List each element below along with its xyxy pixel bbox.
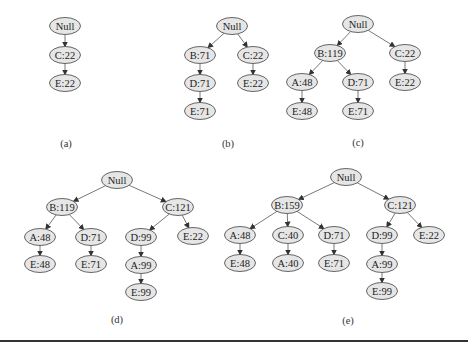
tree-node: E:48 bbox=[25, 256, 56, 273]
node-label: E:22 bbox=[55, 78, 75, 89]
edge-d-c-cd bbox=[150, 214, 170, 230]
node-label: A:48 bbox=[230, 230, 251, 241]
node-label: D:99 bbox=[131, 232, 152, 243]
tree-node: A:48 bbox=[25, 229, 56, 246]
tree-node: A:48 bbox=[225, 227, 256, 244]
node-label: B:119 bbox=[49, 202, 74, 213]
edge-d-c-ce bbox=[182, 215, 189, 228]
tree-node: E:99 bbox=[126, 284, 157, 301]
tree-c: NullB:119C:22A:48D:71E:22E:48E:71 bbox=[287, 16, 421, 120]
edge-e-b-ba bbox=[250, 211, 277, 228]
caption-c: (c) bbox=[352, 137, 364, 149]
node-label: E:22 bbox=[183, 231, 203, 242]
node-label: E:71 bbox=[348, 106, 368, 117]
node-label: E:99 bbox=[131, 287, 151, 298]
node-label: C:121 bbox=[165, 202, 191, 213]
node-label: A:40 bbox=[278, 258, 299, 269]
edge-b-null-b bbox=[208, 33, 224, 47]
tree-node: C:40 bbox=[273, 227, 304, 244]
edge-c-b-bd bbox=[337, 61, 350, 75]
edge-d-null-b bbox=[74, 186, 106, 202]
node-label: D:71 bbox=[348, 77, 369, 88]
caption-d: (d) bbox=[111, 314, 124, 326]
nodes-layer: NullC:22E:22NullB:71C:22D:71E:22E:71Null… bbox=[25, 16, 445, 301]
tree-node: A:99 bbox=[367, 256, 398, 273]
tree-node: E:71 bbox=[76, 256, 107, 273]
node-label: E:71 bbox=[81, 259, 101, 270]
tree-node: Null bbox=[331, 169, 362, 186]
tree-node: A:40 bbox=[273, 255, 304, 272]
node-label: A:48 bbox=[30, 232, 51, 243]
tree-node: Null bbox=[217, 18, 248, 35]
tree-node: E:22 bbox=[414, 227, 445, 244]
tree-node: A:48 bbox=[287, 74, 318, 91]
node-label: E:48 bbox=[30, 259, 50, 270]
node-label: D:71 bbox=[324, 230, 345, 241]
tree-node: C:22 bbox=[238, 47, 269, 64]
tree-node: B:159 bbox=[272, 197, 303, 214]
node-label: D:71 bbox=[81, 232, 102, 243]
node-label: A:99 bbox=[131, 260, 152, 271]
tree-node: Null bbox=[102, 172, 133, 189]
tree-node: E:48 bbox=[287, 103, 318, 120]
edge-c-null-c bbox=[368, 30, 394, 46]
tree-node: Null bbox=[343, 16, 374, 33]
edges-layer bbox=[40, 30, 422, 283]
node-label: C:121 bbox=[387, 200, 413, 211]
tree-node: D:71 bbox=[343, 74, 374, 91]
node-label: Null bbox=[349, 19, 368, 30]
node-label: C:22 bbox=[243, 50, 263, 61]
fp-tree-diagram: NullC:22E:22NullB:71C:22D:71E:22E:71Null… bbox=[0, 0, 468, 348]
node-label: B:71 bbox=[190, 50, 210, 61]
node-label: A:99 bbox=[372, 259, 393, 270]
tree-node: C:121 bbox=[163, 199, 194, 216]
tree-node: D:99 bbox=[367, 227, 398, 244]
node-label: C:40 bbox=[278, 230, 298, 241]
tree-node: C:22 bbox=[390, 45, 421, 62]
node-label: E:71 bbox=[190, 106, 210, 117]
tree-node: E:22 bbox=[178, 228, 209, 245]
caption-b: (b) bbox=[222, 138, 235, 150]
node-label: E:22 bbox=[243, 78, 263, 89]
captions-layer: (a)(b)(c)(d)(e) bbox=[60, 137, 364, 327]
tree-node: E:22 bbox=[390, 74, 421, 91]
node-label: Null bbox=[337, 172, 356, 183]
edge-d-null-c bbox=[129, 185, 166, 201]
edge-d-b-bd bbox=[69, 215, 83, 230]
figure-canvas: NullC:22E:22NullB:71C:22D:71E:22E:71Null… bbox=[0, 0, 468, 348]
tree-node: A:99 bbox=[126, 257, 157, 274]
tree-d: NullB:119C:121A:48D:71D:99E:22E:48E:71A:… bbox=[25, 172, 209, 301]
tree-node: D:71 bbox=[319, 227, 350, 244]
tree-e: NullB:159C:121A:48C:40D:71D:99E:22E:48A:… bbox=[225, 169, 445, 300]
tree-node: B:119 bbox=[315, 45, 346, 62]
caption-a: (a) bbox=[60, 138, 72, 150]
node-label: E:22 bbox=[395, 77, 415, 88]
tree-a: NullC:22E:22 bbox=[50, 18, 81, 92]
tree-node: E:71 bbox=[343, 103, 374, 120]
tree-node: Null bbox=[50, 18, 81, 35]
node-label: D:99 bbox=[372, 230, 393, 241]
node-label: B:119 bbox=[317, 48, 342, 59]
tree-node: D:99 bbox=[126, 229, 157, 246]
node-label: B:159 bbox=[274, 200, 300, 211]
caption-e: (e) bbox=[342, 315, 354, 327]
edge-b-null-c bbox=[238, 34, 248, 47]
tree-node: B:71 bbox=[185, 47, 216, 64]
edge-e-null-c bbox=[357, 183, 388, 199]
tree-node: E:22 bbox=[50, 75, 81, 92]
edge-e-null-b bbox=[299, 183, 335, 200]
node-label: C:22 bbox=[395, 48, 415, 59]
node-label: E:99 bbox=[372, 286, 392, 297]
node-label: E:48 bbox=[292, 106, 312, 117]
node-label: E:48 bbox=[230, 258, 250, 269]
tree-node: C:121 bbox=[385, 197, 416, 214]
node-label: A:48 bbox=[292, 77, 313, 88]
node-label: Null bbox=[108, 175, 127, 186]
edge-d-b-ba bbox=[46, 215, 56, 229]
edge-e-c-cd bbox=[387, 213, 395, 227]
edge-c-b-ba bbox=[309, 61, 322, 75]
tree-node: E:22 bbox=[238, 75, 269, 92]
tree-node: D:71 bbox=[185, 75, 216, 92]
node-label: Null bbox=[223, 21, 242, 32]
edge-c-null-b bbox=[337, 32, 350, 46]
